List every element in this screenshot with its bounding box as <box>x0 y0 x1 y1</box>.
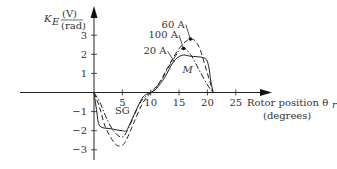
annotation-dot <box>182 47 186 51</box>
x-tick-label: 15 <box>173 97 186 108</box>
y-tick-label: 3 <box>81 30 87 41</box>
y-axis-label-denominator: (rad) <box>61 20 86 31</box>
axes: 510152025−3−2−1123 <box>20 6 272 160</box>
x-axis-label-line1: Rotor position θ <box>247 97 328 108</box>
annotation-dot <box>189 37 193 41</box>
annotation-label: 20 A <box>143 45 167 56</box>
chart: 510152025−3−2−1123 K E (V) (rad) Rotor p… <box>0 0 337 169</box>
curve-20a <box>94 55 213 131</box>
x-axis-arrow-icon <box>260 89 272 96</box>
y-tick-label: 1 <box>81 68 87 79</box>
y-axis-arrow-icon <box>91 6 98 18</box>
y-tick-label: −2 <box>72 125 87 136</box>
x-tick-label: 20 <box>201 97 214 108</box>
y-tick-label: 2 <box>81 49 87 60</box>
annotation-label: SG <box>115 105 130 116</box>
x-axis-label-subscript: r <box>332 99 337 110</box>
annotation-label: 60 A <box>162 19 186 30</box>
y-axis-label-sub: E <box>51 16 60 27</box>
y-tick-label: −3 <box>72 144 87 155</box>
annotation-label: M <box>181 64 193 75</box>
y-tick-label: −1 <box>72 106 87 117</box>
x-tick-label: 25 <box>229 97 242 108</box>
annotation-leader-line <box>186 25 191 39</box>
y-axis-label-numerator: (V) <box>62 8 77 19</box>
y-axis-label-main: K <box>43 13 52 24</box>
x-axis-label-line2: (degrees) <box>263 110 311 121</box>
annotation-leader-line <box>168 51 175 62</box>
annotation-label: 100 A <box>148 29 178 40</box>
